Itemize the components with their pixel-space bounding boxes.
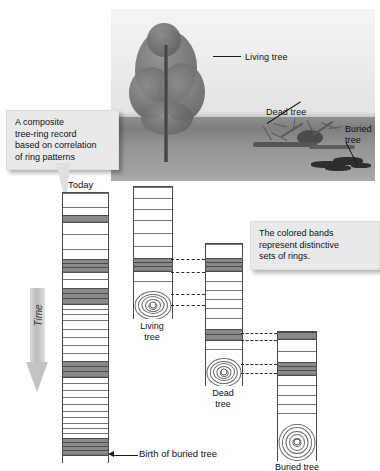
pith-bullseye — [278, 422, 316, 461]
callout-colored-bands: The colored bands represent distinctive … — [250, 221, 380, 270]
pith-center — [150, 301, 157, 308]
ring-column-body — [277, 331, 317, 461]
living-tree-leader — [213, 56, 241, 57]
time-axis-label: Time — [33, 293, 44, 339]
ring-line — [63, 234, 108, 250]
correlation-line — [171, 272, 205, 273]
column-label-buried-tree: Buried tree — [268, 462, 326, 471]
callout-line: based on correlation — [15, 140, 111, 152]
correlation-line — [241, 364, 277, 365]
callout-line: represent distinctive — [259, 240, 372, 252]
photo-label-buried-tree-line2: tree — [345, 135, 361, 145]
ring-column-dead-tree — [205, 243, 241, 385]
column-label-line: tree — [200, 399, 246, 410]
birth-of-buried-tree-label: Birth of buried tree — [139, 448, 217, 459]
dead-tree-illustration — [251, 114, 347, 152]
photo-label-buried-tree-line1: Buried — [345, 124, 372, 134]
buried-tree-illustration — [311, 157, 371, 171]
callout-line: sets of rings. — [259, 251, 372, 263]
time-arrow-head — [26, 362, 48, 392]
ring-line — [63, 221, 108, 235]
correlation-line — [171, 259, 205, 260]
correlation-line — [171, 294, 205, 295]
correlation-line — [241, 340, 277, 341]
today-label: Today — [68, 179, 93, 190]
callout-line: of ring patterns — [15, 152, 111, 164]
ring-column-composite — [62, 192, 107, 462]
ring-column-body — [133, 186, 173, 319]
photo-label-dead-tree: Dead tree — [266, 107, 306, 117]
pith-bullseye — [134, 290, 172, 319]
correlation-line — [241, 333, 277, 334]
ring-line — [134, 220, 172, 234]
ring-line — [134, 233, 172, 247]
callout-composite-record: A composite tree-ring record based on co… — [6, 110, 119, 170]
column-label-line: Dead — [200, 388, 246, 399]
correlation-line — [171, 305, 205, 306]
column-label-line: Living — [128, 321, 176, 332]
ring-line — [206, 244, 242, 259]
callout-line: The colored bands — [259, 228, 372, 240]
column-label-dead-tree: Dead tree — [200, 388, 246, 409]
landscape-photo — [111, 9, 375, 181]
correlation-line — [241, 373, 277, 374]
ring-line — [63, 193, 108, 208]
callout-line: tree-ring record — [15, 129, 111, 141]
column-label-line: tree — [128, 332, 176, 343]
pith-center — [221, 368, 228, 375]
ring-column-body — [205, 243, 243, 386]
ring-column-buried-tree — [277, 331, 315, 460]
column-label-line: Buried tree — [268, 462, 326, 471]
pith-bullseye — [206, 357, 242, 386]
ring-column-body — [62, 192, 109, 463]
column-label-living-tree: Living tree — [128, 321, 176, 342]
pith-center — [294, 438, 301, 445]
time-arrow: Time — [26, 288, 48, 392]
callout-line: A composite — [15, 117, 111, 129]
ring-column-living-tree — [133, 186, 171, 318]
birth-leader-line — [113, 455, 138, 456]
ring-line — [278, 338, 316, 352]
ring-line — [63, 454, 108, 463]
photo-label-living-tree: Living tree — [245, 52, 288, 62]
